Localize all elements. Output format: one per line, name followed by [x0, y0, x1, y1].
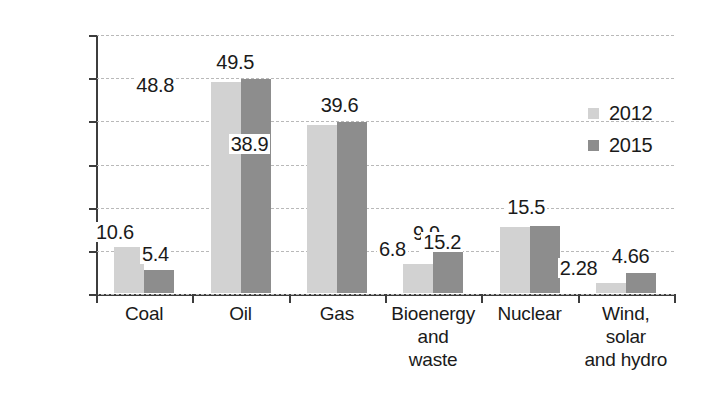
value-label-2012: 15.2 — [421, 232, 463, 252]
value-label-2015: 39.6 — [319, 95, 361, 115]
legend-swatch-icon-2012 — [588, 108, 599, 119]
value-label-2012: 6.8 — [377, 239, 408, 259]
y-tick-mark — [89, 165, 97, 167]
bar-2012-nuclear — [500, 227, 530, 293]
value-label-2012: 2.28 — [558, 258, 600, 278]
bar-2012-oil — [211, 82, 241, 293]
legend-swatch-icon-2015 — [588, 140, 599, 151]
gridline — [96, 208, 674, 209]
bar-2015-oil — [241, 79, 271, 293]
y-tick-mark — [89, 251, 97, 253]
bar-2012-wind,-solar-and hydro — [596, 283, 626, 293]
x-category-label: Wind, solar and hydro — [566, 302, 686, 371]
bar-2012-bioenergy-and-waste — [403, 264, 433, 293]
y-tick-mark — [89, 121, 97, 123]
bar-2015-wind,-solar-and hydro — [626, 273, 656, 293]
gridline — [96, 165, 674, 166]
bar-2015-coal — [144, 270, 174, 293]
value-label-2015: 5.4 — [140, 244, 171, 264]
gridline — [96, 35, 674, 36]
value-label-2015: 15.5 — [505, 197, 547, 217]
value-label-2012: 48.8 — [134, 75, 176, 95]
y-tick-mark — [89, 208, 97, 210]
value-label-2012: 10.6 — [94, 222, 136, 242]
bar-2015-nuclear — [530, 226, 560, 293]
legend-item-2012: 2012 — [588, 97, 652, 129]
bar-2012-gas — [307, 125, 337, 293]
value-label-2015: 49.5 — [214, 52, 256, 72]
legend-label-2012: 2012 — [609, 103, 652, 123]
legend-label-2015: 2015 — [609, 135, 652, 155]
y-axis-title: Million tons — [14, 0, 40, 62]
value-label-2015: 4.66 — [610, 246, 652, 266]
chart-legend: 2012 2015 — [588, 97, 652, 161]
y-tick-mark — [89, 78, 97, 80]
bar-2015-gas — [337, 122, 367, 293]
bar-chart: Million tons 0102030405060 10.65.448.849… — [0, 0, 707, 394]
bar-2015-bioenergy-and-waste — [433, 250, 463, 293]
plot-area: 0102030405060 10.65.448.849.538.939.66.8… — [96, 35, 674, 295]
gridline — [96, 78, 674, 79]
legend-item-2015: 2015 — [588, 129, 652, 161]
y-tick-mark — [89, 35, 97, 37]
value-label-2012: 38.9 — [229, 134, 271, 154]
